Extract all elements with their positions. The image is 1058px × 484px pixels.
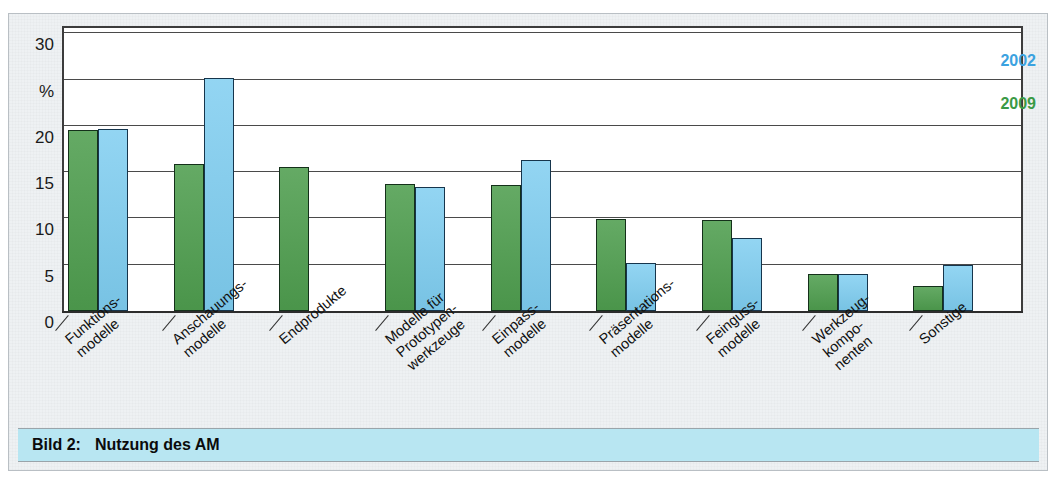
bar-group [279, 28, 385, 311]
caption-band: Bild 2:Nutzung des AM [18, 428, 1039, 462]
bar-group [491, 28, 597, 311]
x-axis-labels: Funktions-modelleAnschauungs-modelleEndp… [62, 313, 1023, 418]
x-axis-label: Endprodukte [276, 313, 383, 418]
x-axis-label: Werkzeug-kompo-nenten [809, 313, 916, 418]
bar-2009 [808, 274, 838, 311]
legend: 2002 2009 [926, 26, 1036, 112]
x-axis-label: Anschauungs-modelle [169, 313, 276, 418]
figure-container: 05101520%30 Funktions-modelleAnschauungs… [0, 0, 1058, 484]
x-axis-label: Funktions-modelle [62, 313, 169, 418]
bar-group [68, 28, 174, 311]
bar-2009 [385, 184, 415, 311]
bar-2009 [913, 286, 943, 311]
x-axis-label: Einpass-modelle [489, 313, 596, 418]
y-axis: 05101520%30 [10, 26, 58, 313]
bar-2002 [204, 78, 234, 311]
caption-title: Nutzung des AM [95, 436, 220, 453]
bar-group [702, 28, 808, 311]
bar-2002 [521, 160, 551, 311]
bar-2009 [702, 220, 732, 311]
bar-2009 [174, 164, 204, 311]
plot-area [62, 26, 1023, 313]
bar-2009 [68, 130, 98, 311]
x-axis-label: Sonstige [916, 313, 1023, 418]
bar-group [174, 28, 280, 311]
legend-item-2009: 2009 [926, 96, 1036, 112]
bar-groups [64, 28, 1021, 311]
bar-2009 [279, 167, 309, 311]
bar-2009 [596, 219, 626, 311]
caption: Bild 2:Nutzung des AM [18, 436, 220, 454]
x-axis-label: Präsentations-modelle [596, 313, 703, 418]
bar-group [596, 28, 702, 311]
bar-2002 [98, 129, 128, 311]
x-axis-label: Modelle fürPrototypen-werkzeuge [382, 313, 489, 418]
x-axis-label: Feinguss-modelle [703, 313, 810, 418]
caption-label: Bild 2: [32, 436, 81, 453]
bar-2009 [491, 185, 521, 311]
bar-group [808, 28, 914, 311]
bar-group [385, 28, 491, 311]
legend-item-2002: 2002 [926, 53, 1036, 69]
